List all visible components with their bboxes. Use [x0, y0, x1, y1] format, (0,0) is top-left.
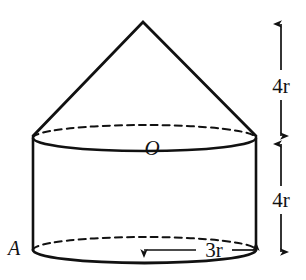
base-radius-label: 3r [205, 238, 223, 262]
dimension-base-radius: 3r [144, 238, 256, 262]
cylinder-height-label: 4r [272, 188, 290, 212]
cone-height-label: 4r [272, 74, 290, 98]
cone-shape [33, 22, 256, 136]
geometry-figure: O A 4r 4r 3r [0, 0, 306, 280]
cone-slant-lines [33, 22, 256, 136]
dimension-cylinder-height: 4r [272, 144, 290, 252]
label-a: A [6, 237, 21, 259]
label-o: O [144, 136, 159, 160]
solid-diagram: O A 4r 4r 3r [0, 0, 306, 280]
dimension-cone-height: 4r [272, 24, 290, 136]
